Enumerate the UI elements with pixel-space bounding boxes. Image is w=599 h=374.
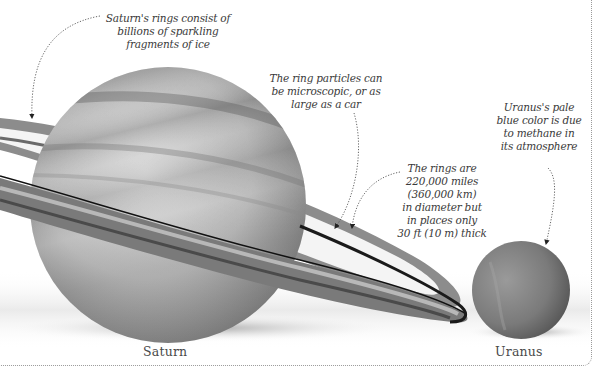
callout-rings-ice: Saturn's rings consist of billions of sp… [98, 12, 238, 51]
figure-frame [0, 0, 592, 366]
callout-ring-particles: The ring particles can be microscopic, o… [262, 72, 390, 111]
label-uranus: Uranus [495, 344, 543, 359]
label-saturn: Saturn [143, 344, 187, 359]
callout-ring-size: The rings are 220,000 miles (360,000 km)… [396, 162, 488, 240]
callout-uranus-color: Uranus's pale blue color is due to metha… [494, 101, 584, 153]
